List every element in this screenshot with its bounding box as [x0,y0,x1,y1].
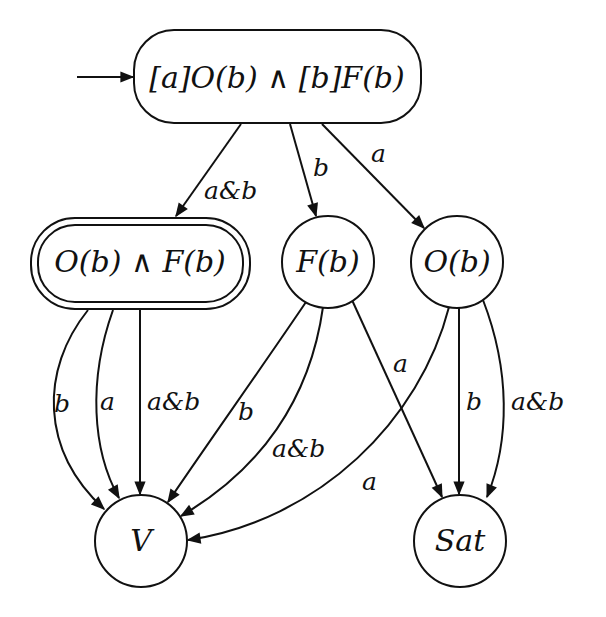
state-label: O(b) ∧ F(b) [54,244,226,279]
edge-label: a&b [511,387,564,416]
edge-label: a [362,467,377,496]
state-ob-and-fb[interactable]: O(b) ∧ F(b) [31,218,250,309]
edge-label: a [100,387,115,416]
state-fb[interactable]: F(b) [282,216,374,308]
state-init[interactable]: [a]O(b) ∧ [b]F(b) [134,30,421,123]
state-v[interactable]: V [95,495,187,587]
edge-label: b [466,387,482,416]
edge-obfb-to-v-a: a [96,310,119,498]
edge-label: a&b [147,387,200,416]
edge-ob-to-v-a: a [188,307,449,540]
state-sat[interactable]: Sat [414,495,506,587]
edge-init-to-ob: a [322,124,424,228]
edge-label: b [238,397,254,426]
state-label: V [130,523,155,558]
state-ob[interactable]: O(b) [411,216,503,308]
edge-label: a&b [204,176,257,205]
state-label: F(b) [295,244,359,279]
edge-ob-to-sat-b: b [459,307,482,494]
edge-init-to-obfb: a&b [176,124,257,216]
edge-label: a&b [272,434,325,463]
state-label: [a]O(b) ∧ [b]F(b) [149,60,405,95]
state-label: Sat [435,523,486,558]
edge-obfb-to-v-ab: a&b [140,310,200,494]
edge-ob-to-sat-ab: a&b [483,300,564,497]
edge-label: a [371,139,386,168]
state-diagram: a&b b a b a a&b b [0,0,606,617]
edge-label: a [393,349,408,378]
state-label: O(b) [423,244,490,279]
nodes: [a]O(b) ∧ [b]F(b) O(b) ∧ F(b) F(b) O(b) … [31,30,506,587]
edge-init-to-fb: b [290,124,329,216]
edge-label: b [313,153,329,182]
edge-label: b [54,389,70,418]
